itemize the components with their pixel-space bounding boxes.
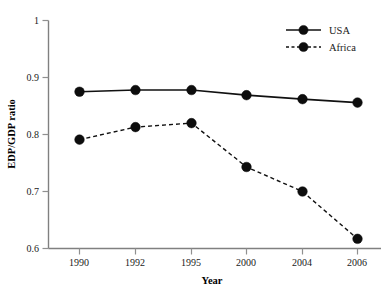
legend-entry-usa[interactable]: USA [286,25,350,36]
y-tick-label-0.6: 0.6 [27,243,40,254]
legend-swatch-marker-africa [299,42,308,51]
legend-entry-africa[interactable]: Africa [286,42,356,53]
y-tick-label-1: 1 [34,15,39,26]
x-axis-ticks [80,249,358,255]
x-tick-label-2000: 2000 [236,257,256,268]
legend: USA Africa [286,25,356,53]
x-tick-label-2006: 2006 [347,257,367,268]
series-usa [75,85,363,107]
y-axis-title: EDP/GDP ratio [6,99,17,169]
data-series-layer [75,85,363,243]
data-point-africa-2000[interactable] [242,162,252,172]
data-point-usa-1990[interactable] [75,87,85,97]
chart-figure: 1 0.9 0.8 0.7 0.6 EDP/GDP ratio 1990 199… [0,0,387,294]
y-tick-label-0.7: 0.7 [27,186,40,197]
legend-swatch-marker-usa [299,25,308,34]
x-tick-label-1992: 1992 [125,257,145,268]
data-point-usa-2006[interactable] [353,98,363,108]
x-axis-tick-labels: 1990 1992 1995 2000 2004 2006 [69,257,367,268]
x-tick-label-1995: 1995 [181,257,201,268]
data-point-africa-1990[interactable] [75,135,85,145]
x-axis-title: Year [202,275,223,286]
data-point-usa-1995[interactable] [187,85,197,95]
x-tick-label-2004: 2004 [292,257,312,268]
data-point-usa-2004[interactable] [298,94,308,104]
data-point-usa-1992[interactable] [131,85,141,95]
data-point-africa-2006[interactable] [353,234,363,244]
series-line-africa [80,123,358,239]
legend-label-usa: USA [329,25,350,36]
data-point-africa-2004[interactable] [298,187,308,197]
x-tick-label-1990: 1990 [69,257,89,268]
y-tick-label-0.9: 0.9 [27,72,40,83]
legend-label-africa: Africa [329,42,356,53]
data-point-usa-2000[interactable] [242,90,252,100]
data-point-africa-1992[interactable] [131,122,141,132]
series-line-usa [80,90,358,103]
y-axis-ticks [43,21,49,249]
y-tick-label-0.8: 0.8 [27,129,40,140]
data-point-africa-1995[interactable] [187,118,197,128]
chart-canvas: 1 0.9 0.8 0.7 0.6 EDP/GDP ratio 1990 199… [0,0,387,294]
y-axis-tick-labels: 1 0.9 0.8 0.7 0.6 [27,15,40,254]
series-africa [75,118,363,243]
